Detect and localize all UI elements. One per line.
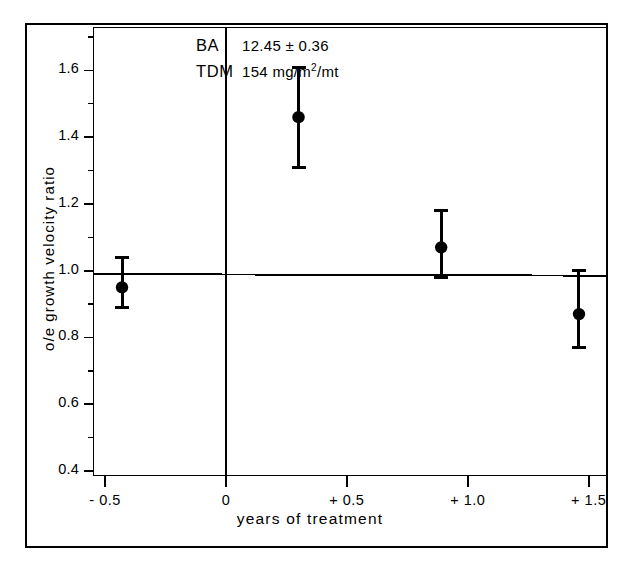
annotation-ba-key: BA xyxy=(196,33,242,59)
data-point-marker xyxy=(573,308,585,320)
annotation-tdm-value: 154 mg/m2/mt xyxy=(242,63,339,80)
y-tick-label: 1.4 xyxy=(31,127,79,143)
plot-drawing-surface xyxy=(0,0,630,573)
x-tick-label: + 1.5 xyxy=(544,492,630,508)
x-axis-label: years of treatment xyxy=(160,510,460,528)
y-tick-label: 0.4 xyxy=(31,461,79,477)
data-point-marker xyxy=(292,111,304,123)
axis-ticks-group xyxy=(84,37,589,487)
figure-container: 0.40.60.81.01.21.41.6- 0.50+ 0.5+ 1.0+ 1… xyxy=(0,0,630,573)
annotation-tdm-value-post: /mt xyxy=(317,63,339,80)
reference-lines-group xyxy=(93,27,608,476)
annotation-tdm-value-pre: 154 mg/m xyxy=(242,63,311,80)
regression-line xyxy=(93,274,608,276)
annotation-tdm-key: TDM xyxy=(196,59,242,85)
x-tick-label: 0 xyxy=(181,492,271,508)
y-tick-label: 0.6 xyxy=(31,394,79,410)
chart-annotation: BA12.45 ± 0.36 TDM154 mg/m2/mt xyxy=(196,33,339,84)
x-tick-label: + 1.0 xyxy=(423,492,513,508)
data-point-marker xyxy=(116,281,128,293)
y-tick-label: 1.6 xyxy=(31,60,79,76)
x-tick-label: - 0.5 xyxy=(60,492,150,508)
y-axis-label: o/e growth velocity ratio xyxy=(40,149,57,369)
annotation-ba-value: 12.45 ± 0.36 xyxy=(242,37,329,54)
x-tick-label: + 0.5 xyxy=(302,492,392,508)
annotation-row-ba: BA12.45 ± 0.36 xyxy=(196,33,339,59)
data-points-group xyxy=(115,67,586,347)
annotation-row-tdm: TDM154 mg/m2/mt xyxy=(196,59,339,85)
data-point-marker xyxy=(435,241,447,253)
